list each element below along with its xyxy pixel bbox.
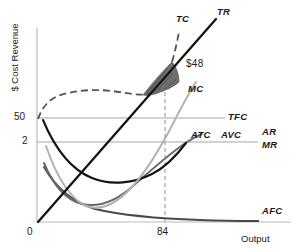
y-tick-50: 50 (14, 111, 25, 122)
series-label-mc: MC (188, 83, 203, 94)
x-tick-0: 0 (27, 226, 33, 237)
x-axis-title: Output (241, 233, 270, 244)
series-label-mr: MR (262, 139, 277, 150)
series-label-tfc: TFC (228, 111, 247, 122)
series-label-afc: AFC (262, 205, 282, 216)
series-label-avc: AVC (221, 129, 241, 140)
y-axis-title: $ Cost Revenue (9, 20, 20, 96)
series-label-atc: ATC (191, 129, 211, 140)
y-tick-2: 2 (22, 135, 28, 146)
series-label-tc: TC (176, 13, 189, 24)
series-label-tr: TR (217, 6, 230, 17)
tc-upper-branch (172, 32, 179, 62)
x-tick-84: 84 (157, 226, 168, 237)
series-label-ar: AR (262, 126, 276, 137)
chart-canvas (0, 0, 297, 251)
cost-revenue-chart: $ Cost Revenue Output 50 2 0 84 TR TC $4… (0, 0, 297, 251)
profit-annotation-label: $48 (186, 58, 204, 69)
